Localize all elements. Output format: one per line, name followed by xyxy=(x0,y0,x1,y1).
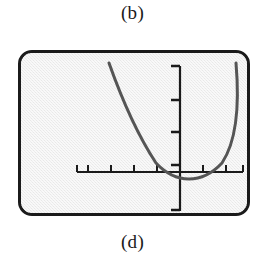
y-axis-ticks xyxy=(171,66,180,210)
figure-label-top: (b) xyxy=(0,2,265,24)
graph-screen xyxy=(18,50,250,216)
figure-label-bottom: (d) xyxy=(0,231,265,253)
parabola-plot xyxy=(21,53,247,213)
parabola-curve xyxy=(109,63,237,179)
figure-container: (b) xyxy=(0,0,265,262)
